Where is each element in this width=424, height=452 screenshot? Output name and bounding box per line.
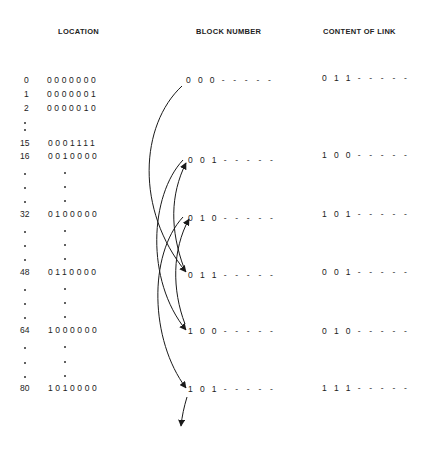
ellipsis-dot [24,245,26,247]
ellipsis-dot [24,289,26,291]
block-entry-011: 0 1 1 - - - - - [188,270,276,280]
ellipsis-dot [64,361,66,363]
location-address: 1010000 [48,383,99,393]
ellipsis-dot [24,173,26,175]
ellipsis-dot [64,244,66,246]
link-dashes: - - - - - [358,73,410,83]
ellipsis-dot [24,201,26,203]
link-arrow-001-to-100 [157,160,186,330]
block-entry-100: 1 0 0 - - - - - [188,326,276,336]
ellipsis-dot [24,303,26,305]
block-entry-010: 0 1 0 - - - - - [188,213,276,223]
ellipsis-dot [24,362,26,364]
block-dashes: - - - - - [224,155,276,165]
location-address: 0000000 [47,75,98,85]
block-number: 0 1 1 [188,270,224,280]
ellipsis-dot [64,346,66,348]
link-entry: 1 1 1 - - - - - [322,383,410,393]
location-address: 0110000 [48,267,99,277]
location-address: 0000001 [47,89,98,99]
block-number: 0 0 0 [186,75,222,85]
location-address: 0100000 [48,209,99,219]
header-block-number: BLOCK NUMBER [196,27,261,36]
location-address: 0000010 [47,103,98,113]
link-value: 1 1 1 [322,383,358,393]
block-dashes: - - - - - [224,213,276,223]
block-dashes: - - - - - [224,384,276,394]
link-dashes: - - - - - [358,383,410,393]
location-index: 80 [20,383,29,393]
link-dashes: - - - - - [358,326,410,336]
location-address: 0001111 [48,138,97,148]
ellipsis-dot [24,347,26,349]
header-content-of-link: CONTENT OF LINK [323,27,396,36]
block-number: 0 0 1 [188,155,224,165]
link-arrow-100-to-010 [176,219,189,324]
block-number: 1 0 0 [188,326,224,336]
link-entry: 0 1 1 - - - - - [322,73,410,83]
location-address: 0010000 [48,151,99,161]
link-arrow-011-to-001 [174,163,186,268]
location-address: 1000000 [48,325,99,335]
link-value: 1 0 0 [322,150,358,160]
link-value: 1 0 1 [322,209,358,219]
link-dashes: - - - - - [358,267,410,277]
link-dashes: - - - - - [358,209,410,219]
location-index: 48 [20,267,29,277]
location-index: 16 [20,151,29,161]
ellipsis-dot [24,317,26,319]
block-dashes: - - - - - [224,326,276,336]
link-entry: 1 0 0 - - - - - [322,150,410,160]
ellipsis-dot [64,288,66,290]
block-number: 1 0 1 [188,384,224,394]
ellipsis-dot [24,187,26,189]
ellipsis-dot [64,186,66,188]
block-dashes: - - - - - [224,270,276,280]
location-index: 15 [20,138,29,148]
header-location: LOCATION [58,27,99,36]
location-index: 64 [20,325,29,335]
block-entry-101: 1 0 1 - - - - - [188,384,276,394]
link-value: 0 1 1 [322,73,358,83]
block-entry-000: 0 0 0 - - - - - [186,75,274,85]
ellipsis-dot [24,376,26,378]
link-entry: 0 0 1 - - - - - [322,267,410,277]
ellipsis-dot [64,375,66,377]
ellipsis-dot [24,129,26,131]
ellipsis-dot [24,122,26,124]
link-entry: 0 1 0 - - - - - [322,326,410,336]
link-value: 0 1 0 [322,326,358,336]
location-index: 0 [24,75,29,85]
ellipsis-dot [64,172,66,174]
ellipsis-dot [64,316,66,318]
block-number: 0 1 0 [188,213,224,223]
ellipsis-dot [24,231,26,233]
link-arrow-010-to-101 [158,217,186,388]
block-dashes: - - - - - [222,75,274,85]
link-entry: 1 0 1 - - - - - [322,209,410,219]
location-index: 32 [20,209,29,219]
ellipsis-dot [64,230,66,232]
link-arrow-101-to-next [181,397,187,426]
ellipsis-dot [64,258,66,260]
ellipsis-dot [64,302,66,304]
link-dashes: - - - - - [358,150,410,160]
location-index: 2 [24,103,29,113]
link-value: 0 0 1 [322,267,358,277]
location-index: 1 [24,89,29,99]
block-entry-001: 0 0 1 - - - - - [188,155,276,165]
ellipsis-dot [24,259,26,261]
ellipsis-dot [64,200,66,202]
link-arrow-000-to-011 [149,86,186,272]
